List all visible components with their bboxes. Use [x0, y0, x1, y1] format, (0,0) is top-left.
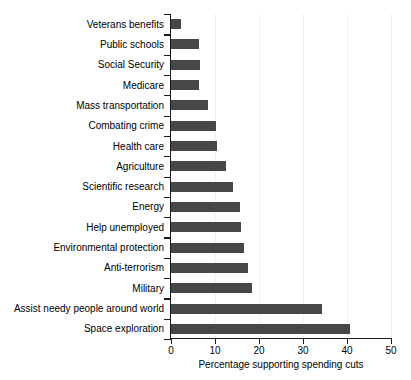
x-axis-tick [171, 339, 172, 344]
bar-row [171, 116, 391, 136]
y-axis-tick [164, 177, 171, 178]
y-axis-tick [164, 156, 171, 157]
category-label: Help unemployed [3, 222, 171, 233]
bar [171, 283, 252, 293]
bar [171, 19, 181, 29]
bar-chart-figure: Veterans benefitsPublic schoolsSocial Se… [0, 0, 411, 380]
y-axis-tick [164, 258, 171, 259]
category-axis-labels: Veterans benefitsPublic schoolsSocial Se… [0, 14, 171, 339]
category-label: Environmental protection [3, 242, 171, 253]
y-axis-tick [164, 34, 171, 35]
category-label: Public schools [3, 39, 171, 50]
y-axis-tick [164, 319, 171, 320]
category-label: Social Security [3, 59, 171, 70]
bar [171, 39, 199, 49]
category-label: Veterans benefits [3, 19, 171, 30]
bar [171, 304, 322, 314]
category-label: Combating crime [3, 120, 171, 131]
category-label: Anti-terrorism [3, 262, 171, 273]
x-axis-tick-label: 10 [209, 345, 220, 356]
bar [171, 202, 240, 212]
category-label: Energy [3, 201, 171, 212]
x-axis-tick [391, 339, 392, 344]
x-axis-tick-label: 0 [168, 345, 174, 356]
bar [171, 263, 248, 273]
bar-row [171, 258, 391, 278]
x-axis-tick-label: 30 [297, 345, 308, 356]
bar [171, 121, 216, 131]
x-axis-tick [347, 339, 348, 344]
x-axis-line [170, 338, 392, 339]
category-label: Agriculture [3, 161, 171, 172]
y-axis-tick [164, 14, 171, 15]
category-label: Medicare [3, 80, 171, 91]
category-label: Assist needy people around world [3, 303, 171, 314]
x-axis-tick [303, 339, 304, 344]
y-axis-tick [164, 95, 171, 96]
bar [171, 80, 199, 90]
bar-row [171, 217, 391, 237]
y-axis-tick [164, 75, 171, 76]
bar-row [171, 237, 391, 257]
bar-row [171, 298, 391, 318]
y-axis-tick [164, 237, 171, 238]
bar-row [171, 136, 391, 156]
gridline [391, 14, 392, 339]
y-axis-tick [164, 298, 171, 299]
bar-row [171, 197, 391, 217]
bar [171, 161, 226, 171]
category-label: Space exploration [3, 323, 171, 334]
y-axis-tick [164, 116, 171, 117]
bar [171, 60, 200, 70]
bar [171, 182, 233, 192]
y-axis-tick [164, 217, 171, 218]
y-axis-tick [164, 136, 171, 137]
bar [171, 100, 208, 110]
x-axis-tick [259, 339, 260, 344]
y-axis-tick [164, 278, 171, 279]
x-axis-tick-label: 40 [341, 345, 352, 356]
bar [171, 141, 217, 151]
y-axis-tick [164, 197, 171, 198]
y-axis-tick [164, 55, 171, 56]
bar-row [171, 177, 391, 197]
bar [171, 324, 350, 334]
bar-row [171, 55, 391, 75]
bar-row [171, 319, 391, 339]
bar-row [171, 75, 391, 95]
bar [171, 222, 241, 232]
x-axis-tick-label: 50 [385, 345, 396, 356]
bar-row [171, 278, 391, 298]
category-label: Health care [3, 141, 171, 152]
bar-row [171, 34, 391, 54]
x-axis-tick-label: 20 [253, 345, 264, 356]
x-axis-title: Percentage supporting spending cuts [171, 359, 391, 371]
bar-row [171, 156, 391, 176]
category-label: Scientific research [3, 181, 171, 192]
bar [171, 243, 244, 253]
category-label: Mass transportation [3, 100, 171, 111]
category-label: Military [3, 283, 171, 294]
y-axis-tick [164, 339, 171, 340]
plot-area [171, 14, 391, 339]
bar-row [171, 14, 391, 34]
x-axis-tick [215, 339, 216, 344]
bar-row [171, 95, 391, 115]
